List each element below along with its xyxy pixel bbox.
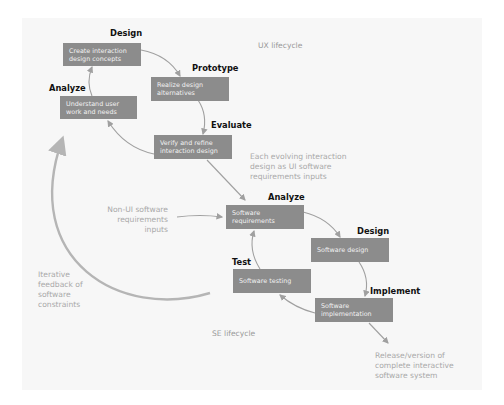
se-design-activity: Software design bbox=[317, 246, 368, 254]
se-lifecycle-title: SE lifecycle bbox=[212, 329, 255, 339]
se-stage-analyze-label: Analyze bbox=[268, 192, 305, 202]
ux-design-activity: Create interaction design concepts bbox=[69, 47, 135, 63]
release-annotation: Release/version of complete interactive … bbox=[375, 351, 454, 381]
se-stage-test-label: Test bbox=[232, 257, 251, 267]
ux-analyze-box[interactable]: Understand user work and needs bbox=[60, 96, 137, 119]
ux-lifecycle-title: UX lifecycle bbox=[258, 41, 302, 51]
se-analyze-box[interactable]: Software requirements bbox=[226, 205, 304, 229]
ux-prototype-box[interactable]: Realize design alternatives bbox=[151, 77, 229, 101]
feedback-annotation: Iterative feedback of software constrain… bbox=[38, 270, 83, 310]
se-stage-implement-label: Implement bbox=[370, 286, 420, 296]
se-stage-design-label: Design bbox=[357, 226, 389, 236]
ux-stage-prototype-label: Prototype bbox=[192, 63, 238, 73]
se-test-box[interactable]: Software testing bbox=[233, 269, 311, 293]
ux-stage-evaluate-label: Evaluate bbox=[211, 120, 252, 130]
se-test-activity: Software testing bbox=[239, 277, 291, 285]
ux-analyze-activity: Understand user work and needs bbox=[66, 100, 131, 116]
se-implement-activity: Software implementation bbox=[321, 302, 387, 318]
ux-prototype-activity: Realize design alternatives bbox=[157, 81, 223, 97]
se-design-box[interactable]: Software design bbox=[311, 238, 389, 262]
ux-stage-analyze-label: Analyze bbox=[49, 83, 86, 93]
ux-evaluate-activity: Verify and refine interaction design bbox=[160, 139, 226, 155]
ux-design-box[interactable]: Create interaction design concepts bbox=[63, 43, 141, 66]
ux-to-se-annotation: Each evolving interaction design as UI s… bbox=[250, 152, 347, 182]
ux-evaluate-box[interactable]: Verify and refine interaction design bbox=[154, 135, 232, 159]
se-analyze-activity: Software requirements bbox=[232, 209, 298, 225]
se-implement-box[interactable]: Software implementation bbox=[315, 298, 393, 322]
ux-stage-design-label: Design bbox=[110, 28, 142, 38]
non-ui-annotation: Non-UI software requirements inputs bbox=[84, 205, 168, 235]
